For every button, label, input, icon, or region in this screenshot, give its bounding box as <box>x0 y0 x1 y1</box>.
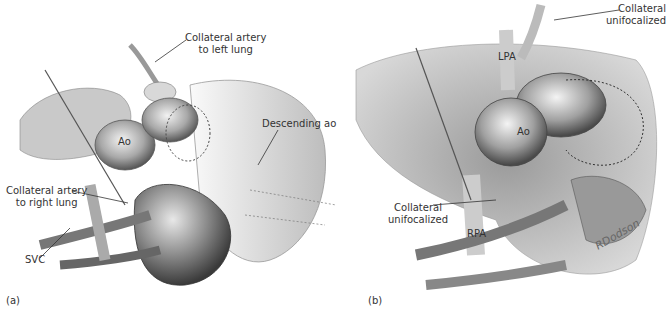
label-line: Collateral artery <box>6 185 87 197</box>
panel-a-illustration: Collateral artery to left lung Descendin… <box>0 0 336 317</box>
label-line: Collateral artery <box>185 32 266 44</box>
panel-b-illustration: RDodson Collateral unifocalized LPA Ao C… <box>336 0 672 317</box>
label-line: to right lung <box>6 197 87 209</box>
label-lpa: LPA <box>498 51 516 63</box>
label-line: to left lung <box>185 44 266 56</box>
panel-label-b: (b) <box>368 295 382 306</box>
label-collateral-unifocalized-bottom: Collateral unifocalized <box>388 202 448 226</box>
label-collateral-left-lung: Collateral artery to left lung <box>185 32 266 56</box>
heart-illustration-b: RDodson <box>336 0 672 317</box>
label-rpa: RPA <box>467 228 486 240</box>
label-svc: SVC <box>25 254 45 266</box>
label-line: Collateral <box>388 202 448 214</box>
panel-label-a: (a) <box>6 295 20 306</box>
heart-illustration-a <box>0 0 336 317</box>
label-line: unifocalized <box>606 15 666 27</box>
label-line: unifocalized <box>388 214 448 226</box>
label-line: Collateral <box>606 3 666 15</box>
label-descending-ao: Descending ao <box>262 118 336 130</box>
label-collateral-right-lung: Collateral artery to right lung <box>6 185 87 209</box>
label-ao: Ao <box>118 136 131 148</box>
label-ao-b: Ao <box>517 126 530 138</box>
label-collateral-unifocalized-top: Collateral unifocalized <box>606 3 666 27</box>
